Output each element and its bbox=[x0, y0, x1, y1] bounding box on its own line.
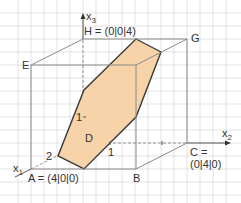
x3-axis-label: x3 bbox=[86, 10, 97, 25]
point-a-label: A = (4|0|0) bbox=[28, 172, 79, 184]
x2-axis-label: x2 bbox=[222, 127, 233, 142]
x1-axis-label: x1 bbox=[13, 162, 24, 177]
cube-diagram: x3 x2 x1 H = (0|0|4) G E D B A = (4|0|0)… bbox=[0, 0, 241, 203]
point-c-label-line2: (0|4|0) bbox=[190, 158, 221, 170]
x1-tick-label: 2 bbox=[46, 150, 52, 162]
x2-tick-label: 1 bbox=[108, 146, 114, 158]
point-d-label: D bbox=[85, 132, 93, 144]
point-c-label-line1: C = bbox=[190, 146, 207, 158]
point-h-label: H = (0|0|4) bbox=[84, 25, 136, 37]
x3-tick-label: 1 bbox=[76, 111, 82, 123]
point-g-label: G bbox=[191, 32, 200, 44]
point-b-label: B bbox=[133, 172, 140, 184]
point-e-label: E bbox=[22, 59, 29, 71]
